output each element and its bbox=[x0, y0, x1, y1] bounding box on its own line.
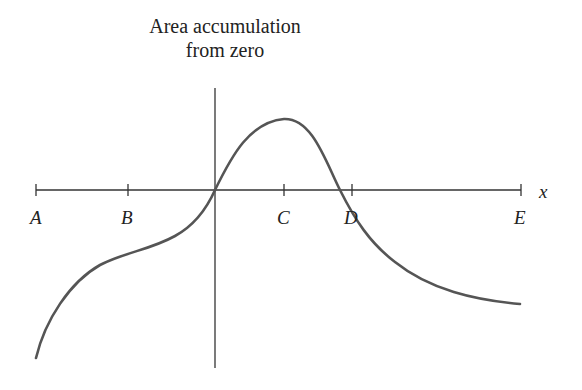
accumulation-curve bbox=[36, 119, 520, 358]
label-a: A bbox=[28, 207, 42, 228]
label-e: E bbox=[513, 207, 526, 228]
x-axis-label: x bbox=[538, 181, 548, 202]
label-b: B bbox=[121, 207, 133, 228]
area-accumulation-diagram: Area accumulation from zero A B C D E x bbox=[0, 0, 582, 390]
label-d: D bbox=[343, 207, 358, 228]
label-c: C bbox=[277, 207, 290, 228]
plot-svg: A B C D E x bbox=[0, 0, 582, 390]
